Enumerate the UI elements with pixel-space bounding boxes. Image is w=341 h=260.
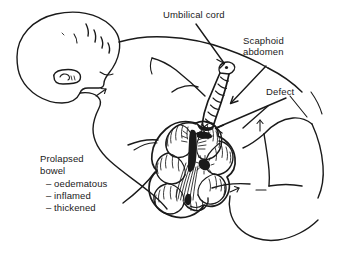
forehead-crease bbox=[100, 72, 113, 75]
abdomen-crease bbox=[172, 86, 198, 92]
thigh-inner-line bbox=[264, 134, 269, 186]
leader-scaphoid-abdomen bbox=[231, 66, 267, 104]
ear-icon bbox=[54, 70, 81, 84]
label-prolapsed-item-oedematous: – oedematous bbox=[46, 178, 108, 189]
neck-back-contour bbox=[80, 93, 167, 209]
haustra-upper-left bbox=[166, 126, 188, 151]
arm-fold bbox=[151, 58, 153, 74]
torso-right-edge-2 bbox=[311, 92, 322, 114]
leader-umbilical-cord bbox=[196, 24, 225, 68]
umbilical-cord-tip bbox=[219, 62, 235, 74]
illustration-canvas: Umbilical cord Scaphoid abdomen Defect P… bbox=[0, 0, 341, 260]
small-arrow-hip bbox=[257, 120, 263, 131]
lower-leg-outer bbox=[312, 124, 323, 198]
leader-defect bbox=[216, 98, 287, 133]
small-arrow-flank bbox=[230, 187, 239, 193]
ear-outline bbox=[54, 70, 81, 84]
calf-contour bbox=[229, 196, 318, 240]
small-arrow-neck bbox=[96, 89, 106, 97]
label-prolapsed-line1: Prolapsed bbox=[40, 153, 84, 164]
label-scaphoid-abdomen-line2: abdomen bbox=[243, 46, 284, 57]
umbilical-cord-group bbox=[202, 62, 235, 128]
leader-cross-line-2 bbox=[290, 96, 307, 117]
thigh-upper-contour bbox=[264, 118, 312, 134]
knee-line bbox=[269, 185, 302, 187]
torso-group bbox=[119, 37, 322, 188]
hair-strokes bbox=[62, 24, 110, 53]
label-prolapsed-item-thickened: – thickened bbox=[46, 202, 96, 213]
ear-inner-curl bbox=[60, 74, 70, 80]
thigh-crease bbox=[243, 134, 264, 148]
neck-and-back-group bbox=[80, 89, 167, 210]
legs-group bbox=[229, 118, 323, 240]
leader-cross-line bbox=[243, 106, 268, 128]
mesenteric-fan bbox=[176, 163, 198, 205]
flank-line-right bbox=[212, 184, 250, 188]
label-defect: Defect bbox=[266, 86, 295, 97]
mesentery-shading bbox=[176, 130, 214, 206]
gastroschisis-figure: Umbilical cord Scaphoid abdomen Defect P… bbox=[0, 0, 341, 260]
label-prolapsed-line2: bowel bbox=[40, 165, 65, 176]
label-scaphoid-abdomen-line1: Scaphoid bbox=[243, 35, 284, 46]
umbilical-cord-left-edge bbox=[202, 73, 220, 125]
label-umbilical-cord: Umbilical cord bbox=[163, 9, 225, 20]
arm-upper-contour bbox=[152, 58, 205, 96]
label-prolapsed-item-inflamed: – inflamed bbox=[46, 190, 91, 201]
